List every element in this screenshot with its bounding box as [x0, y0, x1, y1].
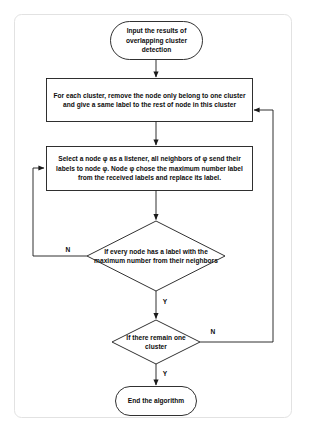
- decision-2-shape: [112, 320, 200, 364]
- end-terminator-shape: [116, 387, 197, 416]
- branch-label-decision1-no: N: [63, 246, 73, 254]
- flowchart-canvas: [0, 0, 313, 437]
- branch-label-decision2-no: N: [208, 328, 218, 336]
- decision-1-shape: [87, 221, 225, 291]
- branch-label-decision1-yes: Y: [160, 298, 170, 306]
- edge-decision2-no-loop: [200, 110, 273, 342]
- branch-label-decision2-yes: Y: [160, 370, 170, 378]
- process-1-shape: [47, 79, 253, 122]
- start-terminator-shape: [111, 22, 203, 60]
- process-2-shape: [47, 147, 253, 191]
- flowchart-diagram: Input the results of overlapping cluster…: [0, 0, 313, 437]
